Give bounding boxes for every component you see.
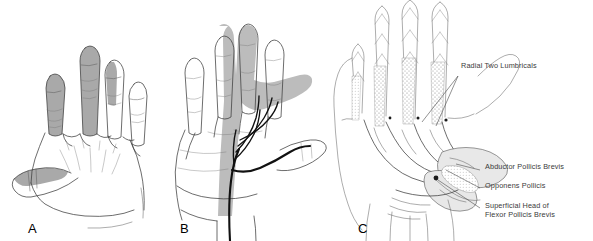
panel-a-dorsal-hand: A <box>0 0 170 241</box>
panel-c-dissection: C Radial Two Lumbricals Abductor Pollici… <box>330 0 593 241</box>
label-radial-two-lumbricals: Radial Two Lumbricals <box>461 62 537 71</box>
label-superficial-head-flexor-pollicis-brevis: Superficial Head of Flexor Pollicis Brev… <box>485 202 555 219</box>
panel-b-palmar-hand: B <box>168 0 328 241</box>
label-abductor-pollicis-brevis: Abductor Pollicis Brevis <box>485 163 564 172</box>
panel-letter-b: B <box>180 221 189 236</box>
panel-letter-c: C <box>358 221 368 236</box>
panel-letter-a: A <box>28 221 37 236</box>
label-opponens-pollicis: Opponens Pollicis <box>485 182 545 191</box>
anatomy-figure: A <box>0 0 593 241</box>
hand-outline-dorsal <box>12 46 147 228</box>
